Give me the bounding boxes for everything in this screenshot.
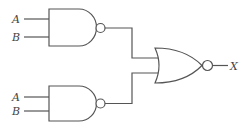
nor-bubble: [203, 61, 213, 71]
nand-body-bottom: [49, 86, 97, 121]
output-label-x: X: [229, 60, 239, 73]
input-label-a-bottom: A: [11, 91, 20, 104]
nand-bubble-top: [96, 24, 105, 33]
input-label-a-top: A: [11, 13, 20, 26]
nor-gate: X: [155, 48, 239, 83]
nand-bubble-bottom: [96, 99, 105, 108]
input-label-b-bottom: B: [11, 105, 20, 118]
nand-gate-bottom: A B: [11, 86, 105, 121]
input-label-b-top: B: [11, 31, 20, 44]
nand-body-top: [49, 9, 97, 46]
wire-top-to-nor: [105, 28, 159, 58]
nand-gate-top: A B: [11, 9, 105, 46]
logic-circuit-diagram: A B A B X: [0, 0, 252, 127]
nor-body: [155, 48, 202, 83]
wire-bottom-to-nor: [105, 73, 159, 104]
